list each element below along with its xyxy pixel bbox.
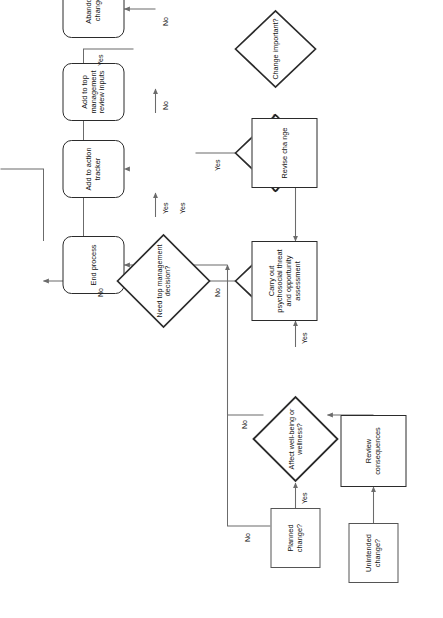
edge-topmgmt-yes <box>0 169 43 241</box>
edge-label-can-change-be-revised-no: No <box>161 101 168 110</box>
node-planned-change[interactable]: Planned change? <box>270 508 320 568</box>
edge-label-affect-wellbeing-yes: Yes <box>300 333 307 344</box>
edge-label-planned-change-yes: Yes <box>300 493 307 504</box>
edge-label-change-important-no: No <box>161 17 168 26</box>
edge-label-need-top-management-decision-yes: Yes <box>178 203 185 214</box>
flowchart-figure: End process Add to action tracker Add to… <box>0 0 443 618</box>
need-top-management-decision-label: Need top management decision? <box>115 233 211 329</box>
node-change-important[interactable]: Change important? <box>233 9 317 89</box>
node-add-to-top-management-review-inputs[interactable]: Add to top management review inputs <box>62 63 124 121</box>
edge-label-need-top-management-decision-no: No <box>96 288 103 297</box>
edge-label-negative-effect-no: No <box>213 288 220 297</box>
node-carry-out-assessment[interactable]: Carry out psychosocial threat and opport… <box>251 241 317 321</box>
node-abandon-change[interactable]: Abandon change <box>62 0 124 38</box>
edge-label-negative-effect-yes: Yes <box>161 203 168 214</box>
edge-label-planned-change-no: No <box>243 533 250 542</box>
node-affect-wellbeing[interactable]: Affect well-being or wellness? <box>251 395 339 483</box>
edge-label-change-important-yes: Yes <box>96 55 103 66</box>
change-important-label: Change important? <box>233 9 317 89</box>
affect-wellbeing-label: Affect well-being or wellness? <box>251 395 339 483</box>
flowchart-canvas: End process Add to action tracker Add to… <box>0 0 443 618</box>
node-revise-change[interactable]: Revise cha nge <box>251 118 317 188</box>
edge-label-can-change-be-revised-yes: Yes <box>213 160 220 171</box>
node-need-top-management-decision[interactable]: Need top management decision? <box>115 233 211 329</box>
node-add-to-action-tracker[interactable]: Add to action tracker <box>62 140 124 198</box>
node-unintended-change[interactable]: Unintended change? <box>348 523 398 583</box>
edge-label-affect-wellbeing-no: No <box>240 420 247 429</box>
node-review-consequences[interactable]: Review consequences <box>340 415 406 487</box>
